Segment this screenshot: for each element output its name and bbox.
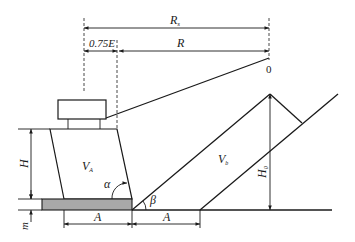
bench-va [50,129,132,199]
label-h0: H0 [255,166,269,179]
label-beta: β [149,193,156,207]
diagram-canvas: Rs 0.75E R 0 E VA α H m Vb H0 β [0,0,355,242]
label-offset: 0.75E [89,37,115,49]
label-vb: Vb [218,152,228,166]
label-m: m [18,222,30,230]
angle-beta-arc [143,201,146,210]
boom-line [106,58,269,118]
spoil-top-right [270,94,302,123]
machine-body [58,100,106,119]
label-a-right: A [162,210,171,224]
label-alpha: α [104,177,111,191]
label-h: H [17,158,31,169]
label-origin: 0 [266,63,272,75]
base-layer [42,199,132,210]
label-r: R [176,36,185,50]
label-rs: Rs [169,13,180,28]
label-a-left: A [93,210,102,224]
